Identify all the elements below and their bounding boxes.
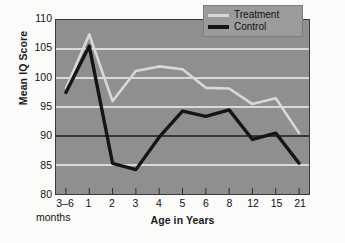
y-tick-label-105: 105 (22, 41, 52, 53)
treatment-line-swatch (208, 14, 229, 17)
legend-label-treatment: Treatment (234, 9, 279, 21)
legend-label-control: Control (234, 21, 266, 33)
y-tick-label-100: 100 (22, 71, 52, 83)
legend-item-treatment: Treatment (208, 9, 298, 21)
iq-score-line-chart: Mean IQ Score 11010510095908580 Treatmen… (0, 0, 345, 243)
x-axis-tick-labels: 3–61234568121521 (55, 197, 310, 213)
x-tick-label-10: 21 (283, 197, 317, 209)
y-tick-label-90: 90 (22, 129, 52, 141)
chart-legend: Treatment Control (203, 5, 303, 37)
y-tick-label-110: 110 (22, 12, 52, 24)
y-tick-label-95: 95 (22, 100, 52, 112)
control-line-swatch (208, 25, 229, 29)
legend-item-control: Control (208, 21, 298, 33)
x-axis-title: Age in Years (55, 214, 310, 226)
y-tick-label-85: 85 (22, 159, 52, 171)
plot-svg (56, 20, 309, 194)
plot-area (55, 19, 310, 195)
y-axis-tick-labels: 11010510095908580 (22, 18, 52, 196)
